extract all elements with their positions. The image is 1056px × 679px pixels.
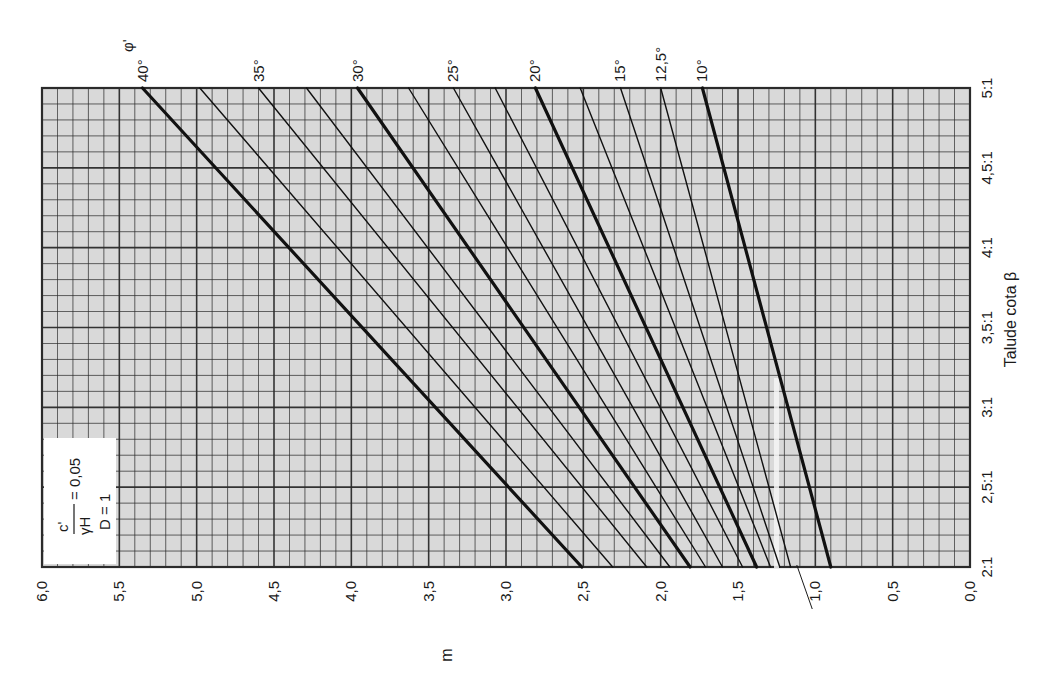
chart-canvas: c'γH= 0,05D = 1 40°35°30°25°20°15°12,5°1…: [0, 0, 1056, 679]
m-axis-title: m: [438, 648, 455, 661]
m-tick-label: 4,5: [265, 581, 282, 602]
ratio-denominator: γH: [76, 517, 93, 535]
m-tick-label: 5,0: [188, 581, 205, 602]
m-tick-label: 1,5: [729, 581, 746, 602]
slope-tick-label: 2,5:1: [978, 470, 995, 503]
m-tick-label: 2,5: [574, 581, 591, 602]
m-tick-label: 0,0: [961, 581, 978, 602]
m-tick-label: 6,0: [33, 581, 50, 602]
slope-axis-title: Talude cota β: [1002, 272, 1019, 367]
m-tick-label: 4,0: [342, 581, 359, 602]
m-tick-label: 2,0: [652, 581, 669, 602]
scan-artifact: [774, 378, 779, 568]
parameter-box: c'γH= 0,05D = 1: [44, 438, 116, 564]
stability-chart: c'γH= 0,05D = 1 40°35°30°25°20°15°12,5°1…: [0, 0, 1056, 679]
m-tick-label: 3,0: [497, 581, 514, 602]
m-tick-label: 1,0: [806, 581, 823, 602]
grid: [42, 88, 970, 568]
slope-tick-label: 3,5:1: [978, 311, 995, 344]
slope-tick-label: 5:1: [978, 78, 995, 99]
ratio-numerator: c': [54, 522, 71, 533]
slope-tick-label: 4,5:1: [978, 151, 995, 184]
curve-label: 35°: [250, 59, 267, 82]
curve-label: 40°: [134, 59, 151, 82]
m-tick-label: 0,5: [884, 581, 901, 602]
slope-tick-label: 3:1: [978, 397, 995, 418]
curve-label: 25°: [444, 59, 461, 82]
curve-label: 12,5°: [652, 47, 669, 82]
curve-label: 30°: [349, 59, 366, 82]
slope-tick-label: 2:1: [978, 557, 995, 578]
curve-label: 10°: [693, 59, 710, 82]
depth-factor: D = 1: [96, 494, 113, 530]
phi-legend-title: φ': [119, 39, 136, 52]
ratio-value: = 0,05: [66, 458, 83, 500]
curve-label: 15°: [611, 59, 628, 82]
m-tick-label: 3,5: [420, 581, 437, 602]
curve-label: 20°: [526, 59, 543, 82]
slope-tick-label: 4:1: [978, 237, 995, 258]
m-tick-label: 5,5: [110, 581, 127, 602]
